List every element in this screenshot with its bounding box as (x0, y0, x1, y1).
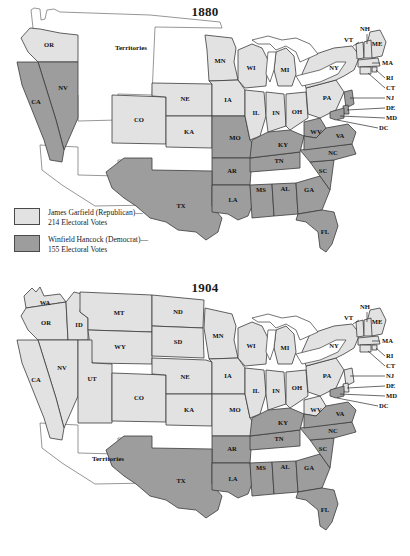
label-VT: VT (344, 36, 354, 43)
label-IN: IN (272, 109, 280, 116)
label-MD: MD (386, 114, 397, 121)
legend-row-republican: James Garfield (Republican)— 214 Elector… (14, 208, 148, 229)
label-WV: WV (310, 406, 322, 413)
label-SD: SD (174, 338, 183, 345)
label-OR: OR (41, 319, 51, 326)
label-NV: NV (58, 84, 68, 91)
label-MD: MD (386, 392, 397, 399)
label-DE: DE (386, 104, 396, 111)
label-CT: CT (386, 362, 396, 369)
label-LA: LA (228, 475, 237, 482)
label-WY: WY (114, 343, 126, 350)
label-MO: MO (229, 134, 240, 141)
label-CA: CA (31, 98, 41, 105)
leader-MD (340, 116, 385, 118)
label-DC: DC (379, 124, 389, 131)
label-NE: NE (180, 373, 190, 380)
state-RI (372, 345, 377, 350)
label-MS: MS (256, 186, 266, 193)
label-NH: NH (360, 303, 371, 310)
label-ID: ID (75, 321, 83, 328)
us-map-1904: WA OR CA NV ID MT WY UT CO ND SD NE KA M… (0, 278, 410, 556)
label-AL: AL (280, 463, 290, 470)
label-NH: NH (360, 25, 371, 32)
legend-label-democrat-candidate: Winfield Hancock (Democrat)— (48, 235, 148, 245)
leader-DE (347, 108, 385, 110)
label-CO: CO (134, 394, 144, 401)
label-MI: MI (281, 66, 290, 73)
label-KA: KA (184, 128, 194, 135)
label-IA: IA (224, 372, 232, 379)
label-NV: NV (57, 364, 67, 371)
label-KA: KA (184, 406, 194, 413)
leader-RI (376, 348, 385, 356)
legend-swatch-republican (14, 208, 40, 225)
label-LA: LA (228, 196, 237, 203)
label-MS: MS (256, 464, 266, 471)
label-GA: GA (304, 464, 314, 471)
label-DC: DC (379, 402, 389, 409)
leader-MD (340, 394, 385, 396)
lake-michigan (266, 52, 276, 82)
label-OR: OR (44, 41, 54, 48)
label-MO: MO (229, 406, 240, 413)
legend-label-democrat-votes: 155 Electoral Votes (48, 245, 148, 255)
map-panel-1904: 1904 (0, 278, 410, 556)
label-MA: MA (382, 59, 393, 66)
leader-CT (368, 73, 385, 88)
label-UT: UT (87, 375, 97, 382)
state-VT (356, 42, 364, 59)
lake-michigan (266, 330, 276, 360)
state-MA (358, 336, 380, 345)
label-AR: AR (227, 167, 237, 174)
legend-label-republican-candidate: James Garfield (Republican)— (48, 208, 143, 218)
leader-RI (376, 70, 385, 78)
label-WI: WI (246, 64, 256, 71)
label-MT: MT (114, 309, 125, 316)
label-DE: DE (386, 382, 396, 389)
legend-row-democrat: Winfield Hancock (Democrat)— 155 Elector… (14, 235, 148, 256)
state-FL (296, 488, 338, 530)
state-CT (360, 345, 371, 352)
label-OH: OH (292, 384, 303, 391)
label-RI: RI (386, 74, 394, 81)
label-CO: CO (134, 116, 144, 123)
label-VT: VT (344, 314, 354, 321)
legend-swatch-democrat (14, 235, 40, 252)
label-FL: FL (321, 506, 330, 513)
label-NY: NY (329, 64, 339, 71)
label-FL: FL (321, 228, 330, 235)
state-FL (296, 210, 338, 252)
leader-CT (368, 351, 385, 366)
state-CT (360, 67, 371, 74)
label-GA: GA (304, 186, 314, 193)
legend-label-republican-votes: 214 Electoral Votes (48, 218, 143, 228)
label-NJ: NJ (386, 94, 395, 101)
label-TN: TN (274, 435, 283, 442)
label-ME: ME (372, 318, 383, 325)
label-NE: NE (180, 95, 190, 102)
label-AL: AL (280, 185, 290, 192)
label-NJ: NJ (386, 372, 395, 379)
label-WV: WV (310, 128, 322, 135)
label-SC: SC (319, 167, 328, 174)
label-IL: IL (253, 109, 261, 116)
label-MN: MN (213, 332, 224, 339)
label-CA: CA (31, 376, 41, 383)
label-MA: MA (382, 337, 393, 344)
map-panel-1880: 1880 (0, 0, 410, 278)
label-PA: PA (323, 372, 332, 379)
label-SC: SC (319, 445, 328, 452)
label-MN: MN (215, 57, 226, 64)
label-VA: VA (336, 132, 345, 139)
state-RI (372, 67, 377, 72)
label-IN: IN (272, 387, 280, 394)
leader-DE (347, 386, 385, 388)
label-CT: CT (386, 84, 396, 91)
label-territories: Territories (92, 455, 124, 463)
label-NC: NC (328, 427, 338, 434)
label-AR: AR (227, 445, 237, 452)
label-ME: ME (372, 40, 383, 47)
label-VA: VA (336, 410, 345, 417)
label-WA: WA (40, 299, 51, 306)
